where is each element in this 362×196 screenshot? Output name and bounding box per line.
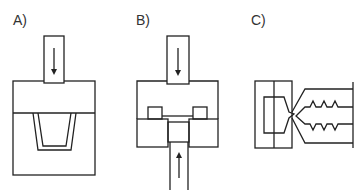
arrowhead-up-icon [176,152,182,158]
left-block [137,119,168,147]
screw-left [264,97,274,133]
cavity-inner [38,113,71,146]
cavity-top [292,89,353,112]
center-cavity [168,122,189,142]
right-block [189,119,218,147]
left-bump [148,107,162,119]
panel-a-diagram [13,36,95,175]
nozzle [274,97,294,133]
mold-body [13,81,95,175]
panel-c-diagram [255,81,353,148]
molding-diagrams [0,0,362,196]
cavity-bottom [292,118,353,143]
serrated-part [296,101,353,130]
upper-mold [137,81,218,119]
panel-b-diagram [137,36,218,190]
right-bump [193,107,207,119]
